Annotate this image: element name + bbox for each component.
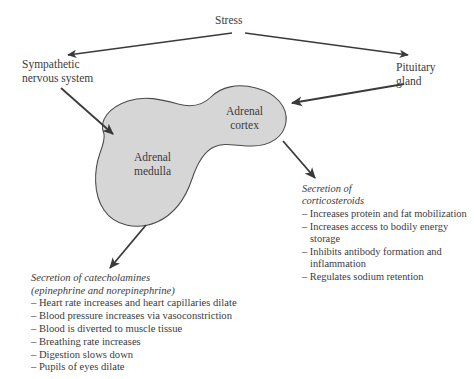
arrow-pituitary-to-cortex bbox=[292, 84, 404, 103]
arrow-cortex-to-corticosteroids bbox=[283, 141, 315, 178]
list-item: – Digestion slows down bbox=[31, 349, 331, 362]
node-label-pituitary-gland: Pituitary gland bbox=[396, 60, 436, 88]
outcome-list-catecholamines: – Heart rate increases and heart capilla… bbox=[31, 297, 331, 374]
list-item: – Blood is diverted to muscle tissue bbox=[31, 323, 331, 336]
node-label-stress: Stress bbox=[215, 13, 242, 27]
list-item: – Blood pressure increases via vasoconst… bbox=[31, 310, 331, 323]
arrow-sympathetic-to-medulla bbox=[61, 88, 113, 134]
arrow-medulla-to-catecholamines bbox=[110, 225, 146, 268]
list-item: – Inhibits antibody formation and inflam… bbox=[302, 246, 468, 271]
list-item: – Breathing rate increases bbox=[31, 336, 331, 349]
outcome-block-corticosteroids: Secretion of corticosteroids – Increases… bbox=[302, 183, 468, 283]
list-item: – Pupils of eyes dilate bbox=[31, 361, 331, 374]
outcome-heading-corticosteroids: Secretion of corticosteroids bbox=[302, 183, 468, 208]
node-label-sympathetic-nervous-system: Sympathetic nervous system bbox=[22, 57, 93, 85]
list-item: – Heart rate increases and heart capilla… bbox=[31, 297, 331, 310]
outcome-block-catecholamines: Secretion of catecholamines (epinephrine… bbox=[31, 272, 331, 374]
adrenal-stress-diagram: Stress Sympathetic nervous system Pituit… bbox=[0, 0, 474, 379]
node-label-adrenal-cortex: Adrenal cortex bbox=[226, 104, 263, 132]
arrow-stress-to-sympathetic bbox=[68, 33, 232, 55]
list-item: – Increases protein and fat mobilization bbox=[302, 208, 468, 221]
list-item: – Increases access to bodily energy stor… bbox=[302, 221, 468, 246]
arrow-stress-to-pituitary bbox=[245, 33, 408, 55]
outcome-heading-catecholamines: Secretion of catecholamines (epinephrine… bbox=[31, 272, 331, 297]
node-label-adrenal-medulla: Adrenal medulla bbox=[134, 150, 171, 178]
